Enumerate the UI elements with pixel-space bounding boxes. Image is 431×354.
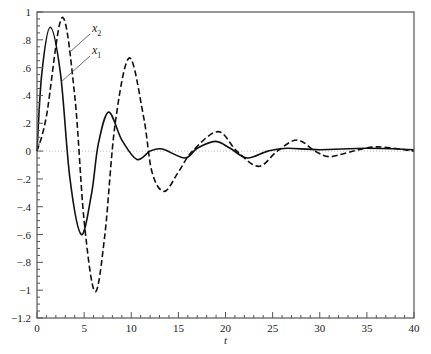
x-tick-label: 30 [314, 322, 326, 334]
y-tick-label: .6 [23, 62, 32, 74]
x2-label-subscript: 2 [97, 29, 101, 38]
y-tick-label: −.6 [17, 229, 32, 241]
y-tick-label: .2 [23, 117, 31, 129]
x-tick-label: 10 [126, 322, 138, 334]
x-tick-label: 5 [81, 322, 87, 334]
y-tick-label: −1.2 [11, 312, 31, 324]
y-tick-label: 0 [26, 145, 32, 157]
x-tick-label: 15 [173, 322, 185, 334]
x-tick-label: 0 [34, 322, 40, 334]
plot-background [0, 0, 431, 354]
x-tick-label: 25 [267, 322, 279, 334]
y-tick-label: −.2 [17, 173, 31, 185]
y-tick-label: .4 [23, 89, 32, 101]
y-tick-label: −1 [19, 284, 31, 296]
x-tick-label: 35 [361, 322, 373, 334]
y-tick-label: 1 [26, 6, 32, 18]
y-tick-label: −.8 [17, 256, 32, 268]
x-tick-label: 40 [409, 322, 421, 334]
chart: 05101520253035401.8.6.4.20−.2−.4−.6−.8−1… [0, 0, 431, 354]
x-tick-label: 20 [220, 322, 232, 334]
y-tick-label: .8 [23, 34, 32, 46]
x1-label-subscript: 1 [97, 51, 101, 60]
y-tick-label: −.4 [17, 201, 32, 213]
